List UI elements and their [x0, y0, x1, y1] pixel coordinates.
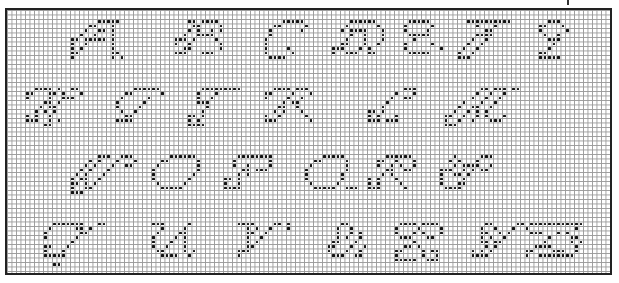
stitch	[44, 254, 47, 257]
stitch	[341, 155, 344, 158]
stitch	[80, 47, 83, 50]
stitch	[152, 169, 155, 172]
stitch	[125, 119, 128, 122]
stitch	[377, 43, 380, 46]
stitch	[202, 20, 205, 23]
stitch	[80, 223, 83, 226]
stitch	[188, 254, 191, 257]
stitch	[139, 88, 142, 91]
stitch	[395, 250, 398, 253]
stitch	[188, 43, 191, 46]
stitch	[467, 20, 470, 23]
stitch	[67, 97, 70, 100]
stitch	[409, 169, 412, 172]
stitch	[44, 124, 47, 127]
stitch	[296, 20, 299, 23]
stitch	[472, 254, 475, 257]
stitch	[368, 178, 371, 181]
stitch	[422, 34, 425, 37]
stitch	[184, 47, 187, 50]
stitch	[476, 106, 479, 109]
stitch	[400, 236, 403, 239]
stitch	[490, 34, 493, 37]
stitch	[157, 232, 160, 235]
stitch	[382, 34, 385, 37]
stitch	[49, 254, 52, 257]
stitch	[202, 115, 205, 118]
stitch	[454, 124, 457, 127]
stitch	[58, 119, 61, 122]
stitch	[44, 110, 47, 113]
stitch	[485, 223, 488, 226]
stitch	[179, 232, 182, 235]
stitch	[62, 254, 65, 257]
stitch	[499, 20, 502, 23]
stitch	[143, 88, 146, 91]
stitch	[35, 88, 38, 91]
stitch	[472, 119, 475, 122]
stitch	[71, 223, 74, 226]
stitch	[125, 92, 128, 95]
stitch	[418, 227, 421, 230]
stitch	[202, 88, 205, 91]
stitch	[278, 115, 281, 118]
stitch	[296, 88, 299, 91]
stitch	[463, 164, 466, 167]
stitch	[107, 20, 110, 23]
stitch	[197, 97, 200, 100]
stitch	[472, 52, 475, 55]
stitch	[458, 106, 461, 109]
stitch	[431, 25, 434, 28]
stitch	[184, 34, 187, 37]
stitch	[544, 34, 547, 37]
stitch	[332, 245, 335, 248]
stitch	[359, 236, 362, 239]
stitch	[26, 92, 29, 95]
stitch	[539, 245, 542, 248]
stitch	[400, 223, 403, 226]
stitch	[355, 20, 358, 23]
stitch	[49, 106, 52, 109]
stitch	[251, 155, 254, 158]
stitch	[409, 88, 412, 91]
stitch	[89, 160, 92, 163]
stitch	[89, 227, 92, 230]
stitch	[233, 88, 236, 91]
stitch	[341, 178, 344, 181]
stitch	[346, 25, 349, 28]
stitch	[116, 101, 119, 104]
stitch	[413, 52, 416, 55]
stitch	[413, 232, 416, 235]
stitch	[184, 245, 187, 248]
stitch	[184, 227, 187, 230]
stitch	[80, 191, 83, 194]
stitch	[346, 38, 349, 41]
stitch	[80, 232, 83, 235]
stitch	[224, 88, 227, 91]
stitch	[566, 232, 569, 235]
stitch	[544, 223, 547, 226]
stitch	[481, 236, 484, 239]
stitch	[71, 38, 74, 41]
stitch	[206, 106, 209, 109]
stitch	[76, 191, 79, 194]
stitch	[400, 250, 403, 253]
stitch	[44, 232, 47, 235]
stitch	[278, 56, 281, 59]
stitch	[373, 110, 376, 113]
stitch	[103, 155, 106, 158]
stitch	[166, 187, 169, 190]
stitch	[530, 232, 533, 235]
stitch	[71, 47, 74, 50]
stitch	[566, 254, 569, 257]
stitch	[76, 182, 79, 185]
stitch	[58, 223, 61, 226]
stitch	[247, 227, 250, 230]
stitch	[193, 25, 196, 28]
stitch	[418, 52, 421, 55]
stitch	[539, 254, 542, 257]
stitch	[431, 223, 434, 226]
stitch	[98, 178, 101, 181]
stitch	[202, 124, 205, 127]
stitch	[530, 250, 533, 253]
